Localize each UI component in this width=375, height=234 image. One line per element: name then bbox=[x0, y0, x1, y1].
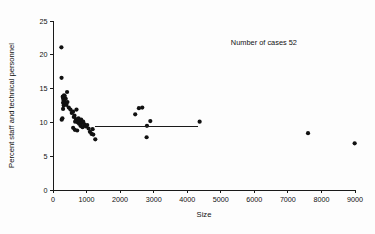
data-point bbox=[75, 128, 79, 132]
x-tick-label: 6000 bbox=[246, 195, 262, 204]
data-point bbox=[61, 95, 65, 99]
data-point bbox=[140, 105, 144, 109]
data-point bbox=[306, 131, 310, 135]
y-tick-label: 10 bbox=[40, 118, 48, 127]
data-point bbox=[65, 90, 69, 94]
x-tick-label: 1000 bbox=[79, 195, 95, 204]
scatter-plot: 0510152025 01000200030004000500060007000… bbox=[0, 0, 375, 234]
y-tick-label: 20 bbox=[40, 50, 48, 59]
data-point bbox=[198, 120, 202, 124]
case-count-annotation: Number of cases 52 bbox=[231, 38, 297, 47]
data-point bbox=[353, 141, 357, 145]
x-tick-label: 8000 bbox=[313, 195, 329, 204]
x-tick-label: 9000 bbox=[347, 195, 363, 204]
data-point bbox=[91, 132, 95, 136]
x-tick-label: 4000 bbox=[179, 195, 195, 204]
y-tick-label: 25 bbox=[40, 17, 48, 26]
data-point bbox=[74, 107, 78, 111]
x-tick-label: 3000 bbox=[146, 195, 162, 204]
data-point bbox=[93, 137, 97, 141]
data-point bbox=[59, 45, 63, 49]
data-point bbox=[61, 107, 65, 111]
data-point bbox=[145, 124, 149, 128]
data-point bbox=[145, 135, 149, 139]
y-axis-ticks: 0510152025 bbox=[40, 17, 54, 195]
y-tick-label: 5 bbox=[44, 152, 48, 161]
plot-axes bbox=[53, 21, 355, 190]
x-tick-label: 2000 bbox=[112, 195, 128, 204]
data-point bbox=[133, 112, 137, 116]
data-points-layer bbox=[59, 45, 356, 145]
y-tick-label: 0 bbox=[44, 186, 48, 195]
x-tick-label: 7000 bbox=[280, 195, 296, 204]
chart-figure: 0510152025 01000200030004000500060007000… bbox=[0, 0, 375, 234]
x-tick-label: 5000 bbox=[213, 195, 229, 204]
data-point bbox=[59, 76, 63, 80]
y-tick-label: 15 bbox=[40, 84, 48, 93]
x-axis-title: Size bbox=[197, 210, 212, 219]
data-point bbox=[91, 127, 95, 131]
data-point bbox=[60, 116, 64, 120]
x-axis-ticks: 0100020003000400050006000700080009000 bbox=[51, 190, 363, 204]
y-axis-title: Percent staff and technical personnel bbox=[7, 43, 16, 168]
x-tick-label: 0 bbox=[51, 195, 55, 204]
data-point bbox=[148, 119, 152, 123]
